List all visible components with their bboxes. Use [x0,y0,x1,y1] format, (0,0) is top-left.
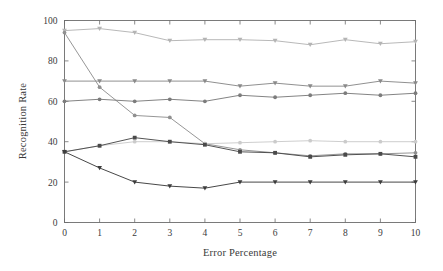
series-marker [133,114,137,118]
series-marker [238,93,242,97]
series-group [62,27,418,191]
x-tick-label: 2 [132,228,137,238]
plot-frame [65,21,416,223]
series-marker [414,91,418,95]
x-axis-tick-labels: 012345678910 [62,228,420,238]
y-axis-title: Recognition Rate [17,83,28,160]
x-tick-label: 4 [203,228,208,238]
series-marker [98,144,102,148]
x-tick-label: 9 [378,228,383,238]
line-chart-svg: 020406080100 012345678910 Error Percenta… [0,0,443,271]
series-marker [133,136,137,140]
x-tick-label: 1 [97,228,102,238]
x-axis-title: Error Percentage [203,247,277,258]
series-marker [203,143,207,147]
series-marker [133,99,137,103]
series-marker [238,150,242,154]
x-tick-label: 3 [167,228,172,238]
series-marker [273,151,277,155]
y-tick-label: 20 [48,178,58,188]
chart-series-series-7-bottom [62,150,418,191]
chart-series-series-1-top [62,27,418,47]
x-tick-label: 5 [238,228,243,238]
series-marker [98,97,102,101]
chart-series-series-6-peak-then-flat [63,136,418,159]
series-marker [308,155,312,159]
series-marker [343,91,347,95]
x-tick-label: 6 [273,228,278,238]
series-marker [343,140,347,144]
chart-figure: 020406080100 012345678910 Error Percenta… [0,0,443,271]
series-marker [343,153,347,157]
series-marker [379,152,383,156]
series-marker [168,140,172,144]
series-marker [273,140,277,144]
series-marker [63,31,67,35]
series-marker [308,139,312,143]
series-marker [168,97,172,101]
series-marker [414,140,418,144]
series-marker [238,141,242,145]
series-marker [63,99,67,103]
series-marker [273,95,277,99]
y-tick-label: 100 [43,16,58,26]
series-marker [168,116,172,120]
axis-tickmarks [65,21,416,223]
series-marker [98,85,102,89]
x-tick-label: 10 [411,228,421,238]
series-marker [414,151,418,155]
series-marker [133,140,137,144]
chart-series-series-3-upper-mid [62,79,418,88]
x-tick-label: 7 [308,228,313,238]
y-axis-tick-labels: 020406080100 [43,16,58,228]
chart-series-series-4-lower-mid [63,91,418,103]
series-marker [203,99,207,103]
series-line [65,29,416,45]
y-tick-label: 0 [53,218,58,228]
y-tick-label: 40 [48,137,58,147]
series-marker [379,93,383,97]
x-tick-label: 8 [343,228,348,238]
x-tick-label: 0 [62,228,67,238]
series-line [65,138,416,157]
series-marker [379,140,383,144]
series-marker [308,93,312,97]
y-tick-label: 60 [48,97,58,107]
series-marker [414,155,418,159]
y-tick-label: 80 [48,56,58,66]
